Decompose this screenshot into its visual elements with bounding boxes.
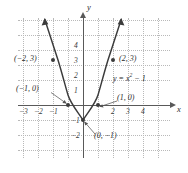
y-tick-2: 2 [74,71,78,80]
gridline-horizontal [18,35,170,36]
point-label-2-3: (2, 3) [119,54,136,63]
gridline-vertical [128,18,129,158]
data-point [66,103,70,107]
point-label-neg1-0: (−1, 0) [16,84,39,93]
x-tick-neg3: −3 [19,107,28,116]
gridline-horizontal [18,20,170,21]
equation-suffix: − 1 [132,74,145,83]
x-axis-arrow-icon [170,102,176,108]
point-label-0-neg1: (0, −1) [94,131,117,140]
gridline-horizontal [18,80,170,81]
equation-prefix: y = x [113,74,130,83]
x-axis-label: x [177,104,181,114]
x-tick-3: 3 [126,107,130,116]
x-tick-4: 4 [141,107,145,116]
data-point [111,58,115,62]
y-tick-3: 3 [74,56,78,65]
point-label-neg2-3: (−2, 3) [14,54,37,63]
graph-figure: y x −3 −2 −1 2 3 4 4 3 2 1 −1 −2 (−2, 3)… [0,0,188,173]
x-tick-2: 2 [111,107,115,116]
gridline-horizontal [18,65,170,66]
y-axis-arrow-icon [80,12,86,18]
y-tick-neg1: −1 [71,116,80,125]
gridline-vertical [53,18,54,158]
gridline-horizontal [18,50,170,51]
x-axis [18,105,170,106]
gridline-vertical [143,18,144,158]
point-label-1-0: (1, 0) [117,93,134,102]
y-axis [83,18,84,158]
data-point [96,103,100,107]
x-tick-neg2: −2 [34,107,43,116]
data-point [81,118,85,122]
y-tick-4: 4 [74,41,78,50]
gridline-horizontal [18,120,170,121]
y-tick-neg2: −2 [71,131,80,140]
y-axis-label: y [87,2,91,12]
gridline-vertical [158,18,159,158]
data-point [51,58,55,62]
y-tick-1: 1 [74,86,78,95]
x-tick-neg1: −1 [49,107,58,116]
equation-label: y = x2 − 1 [113,72,146,83]
gridline-horizontal [18,150,170,151]
gridline-vertical [68,18,69,158]
